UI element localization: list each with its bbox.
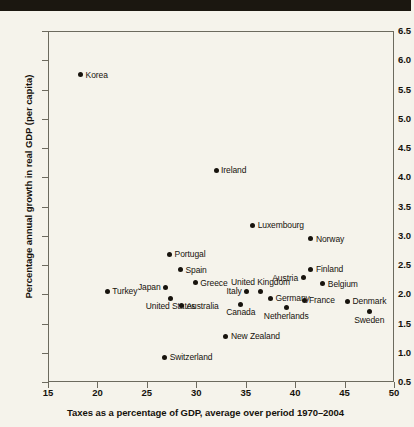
plot-area: KoreaIrelandLuxembourgNorwayPortugalSpai… xyxy=(48,31,394,382)
x-tick-label: 25 xyxy=(127,387,167,398)
data-point-marker xyxy=(250,223,255,228)
data-point-label: Turkey xyxy=(112,287,137,296)
x-tick-label: 40 xyxy=(275,387,315,398)
data-point-marker xyxy=(345,299,350,304)
data-point-marker xyxy=(301,275,306,280)
data-point-marker xyxy=(302,298,307,303)
data-point-label: Korea xyxy=(86,70,108,79)
data-point-label: Japan xyxy=(138,283,161,292)
data-point-marker xyxy=(214,168,219,173)
data-point-label: Sweden xyxy=(354,316,384,325)
x-tick-label: 35 xyxy=(226,387,266,398)
data-point-label: France xyxy=(309,296,335,305)
x-tick-label: 50 xyxy=(374,387,414,398)
data-point-label: Spain xyxy=(185,265,206,274)
data-point-label: New Zealand xyxy=(231,332,280,341)
data-point-marker xyxy=(238,302,243,307)
data-point-label: Belgium xyxy=(328,279,358,288)
data-point-label: Norway xyxy=(316,234,344,243)
scatter-chart-figure: Percentage annual growth in real GDP (pe… xyxy=(0,11,411,427)
data-point-marker xyxy=(320,281,325,286)
data-point-marker xyxy=(244,289,249,294)
data-point-marker xyxy=(168,296,173,301)
data-point-label: Luxembourg xyxy=(258,221,304,230)
data-point-label: United Kingdom xyxy=(231,278,290,287)
data-point-marker xyxy=(78,72,83,77)
data-point-label: Finland xyxy=(316,265,343,274)
data-point-marker xyxy=(308,267,313,272)
x-tick-label: 20 xyxy=(77,387,117,398)
data-point-marker xyxy=(105,289,110,294)
data-point-label: Switzerland xyxy=(170,353,213,362)
x-tick-label: 30 xyxy=(176,387,216,398)
data-point-marker xyxy=(308,236,313,241)
x-tick-label: 45 xyxy=(325,387,365,398)
data-point-label: Italy xyxy=(227,287,242,296)
x-tick-label: 15 xyxy=(28,387,68,398)
data-point-label: Netherlands xyxy=(264,312,309,321)
data-point-marker xyxy=(258,289,263,294)
data-point-marker xyxy=(223,334,228,339)
x-axis-title: Taxes as a percentage of GDP, average ov… xyxy=(0,407,411,418)
data-point-label: Australia xyxy=(186,301,218,310)
data-point-label: Denmark xyxy=(353,297,387,306)
data-point-marker xyxy=(178,267,183,272)
data-point-label: Portugal xyxy=(175,250,206,259)
data-point-marker xyxy=(367,309,372,314)
data-point-marker xyxy=(163,285,168,290)
data-point-marker xyxy=(193,280,198,285)
data-point-marker xyxy=(167,252,172,257)
data-point-label: Ireland xyxy=(221,166,246,175)
data-point-marker xyxy=(268,296,273,301)
top-dark-band xyxy=(0,0,411,11)
y-axis-title: Percentage annual growth in real GDP (pe… xyxy=(23,37,34,337)
data-point-marker xyxy=(284,305,289,310)
data-point-label: Canada xyxy=(226,308,255,317)
data-point-label: Greece xyxy=(200,278,227,287)
data-point-marker xyxy=(162,355,167,360)
